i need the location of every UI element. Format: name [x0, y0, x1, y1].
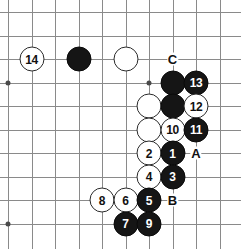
stone-move-number: 8: [99, 194, 105, 206]
grid-line-horizontal: [0, 177, 241, 178]
stone-white-plain-c5r2: [113, 47, 138, 72]
stone-b1: 1: [160, 141, 185, 166]
stone-move-number: 9: [146, 218, 152, 230]
stone-move-number: 1: [169, 147, 175, 159]
grid-line-vertical: [32, 0, 33, 249]
grid-line-vertical: [55, 0, 56, 249]
stone-w6: 6: [113, 188, 138, 213]
stone-w14: 14: [19, 47, 44, 72]
go-board-diagram: 1413121011214386579 CAB: [0, 0, 241, 249]
stone-b9: 9: [137, 211, 162, 236]
grid-line-horizontal: [0, 12, 241, 13]
stone-w10: 10: [160, 117, 185, 142]
stone-w4: 4: [137, 164, 162, 189]
stone-move-number: 11: [190, 124, 202, 136]
stone-b13: 13: [184, 70, 209, 95]
stone-w2: 2: [137, 141, 162, 166]
stone-move-number: 7: [122, 218, 128, 230]
grid-line-horizontal: [0, 153, 241, 154]
stone-b11: 11: [184, 117, 209, 142]
stone-b7: 7: [113, 211, 138, 236]
stone-black-plain-c7r3: [160, 70, 185, 95]
label-a: A: [190, 147, 201, 160]
stone-move-number: 6: [122, 194, 128, 206]
star-point: [147, 80, 152, 85]
grid-line-vertical: [8, 0, 9, 249]
stone-move-number: 2: [146, 147, 152, 159]
star-point: [6, 80, 11, 85]
stone-b5: 5: [137, 188, 162, 213]
stone-black-plain-c3r2: [66, 47, 91, 72]
stone-move-number: 5: [146, 194, 152, 206]
stone-move-number: 13: [190, 77, 203, 89]
stone-move-number: 4: [146, 171, 152, 183]
grid-line-vertical: [220, 0, 221, 249]
stone-b3: 3: [160, 164, 185, 189]
stone-w8: 8: [90, 188, 115, 213]
stone-move-number: 3: [169, 171, 175, 183]
star-point: [6, 221, 11, 226]
label-c: C: [167, 53, 178, 66]
label-b: B: [167, 194, 178, 207]
grid-line-vertical: [79, 0, 80, 249]
stone-black-plain-c7r4: [160, 94, 185, 119]
stone-move-number: 10: [166, 124, 179, 136]
stone-move-number: 12: [190, 100, 203, 112]
grid-line-horizontal: [0, 36, 241, 37]
stone-white-plain-c6r4: [137, 94, 162, 119]
stone-white-plain-c6r5: [137, 117, 162, 142]
stone-move-number: 14: [25, 53, 38, 65]
stone-w12: 12: [184, 94, 209, 119]
